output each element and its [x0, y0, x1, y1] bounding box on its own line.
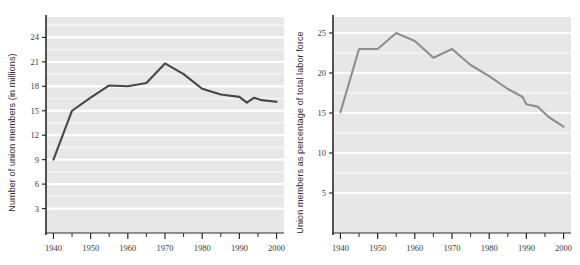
two-panel-line-chart-figure: Number of union members (in millions) 36… [0, 0, 580, 265]
x-tick-label: 1940 [45, 243, 62, 253]
y-tick-label: 9 [35, 155, 39, 165]
x-tick-label: 1950 [82, 243, 99, 253]
x-tick-label: 1960 [406, 243, 423, 253]
x-tick-label: 1970 [157, 243, 174, 253]
y-tick-label: 24 [31, 32, 40, 42]
y-tick-label: 6 [35, 179, 39, 189]
y-tick-label: 10 [318, 148, 327, 158]
x-tick-label: 1980 [481, 243, 498, 253]
y-tick-label: 20 [318, 68, 327, 78]
plot-area-right: 5101520251940195019601970198019902000 [290, 0, 580, 265]
plot-area-left: 3691215182124194019501960197019801990200… [0, 0, 290, 265]
y-tick-label: 18 [31, 81, 40, 91]
x-tick-label: 1940 [332, 243, 349, 253]
y-tick-label: 21 [31, 57, 40, 67]
x-tick-label: 2000 [555, 243, 572, 253]
y-tick-label: 15 [31, 106, 40, 116]
x-tick-label: 1990 [231, 243, 248, 253]
x-tick-label: 1990 [518, 243, 535, 253]
y-tick-label: 3 [35, 204, 39, 214]
y-tick-label: 12 [31, 130, 40, 140]
x-tick-label: 1950 [369, 243, 386, 253]
y-tick-label: 5 [322, 188, 326, 198]
x-tick-label: 1960 [119, 243, 136, 253]
x-tick-label: 2000 [268, 243, 285, 253]
y-tick-label: 25 [318, 28, 327, 38]
y-tick-label: 15 [318, 108, 327, 118]
x-tick-label: 1980 [194, 243, 211, 253]
chart-panel-union-members-percent: Union members as percentage of total lab… [290, 0, 580, 265]
chart-panel-union-members-millions: Number of union members (in millions) 36… [0, 0, 290, 265]
x-tick-label: 1970 [444, 243, 461, 253]
